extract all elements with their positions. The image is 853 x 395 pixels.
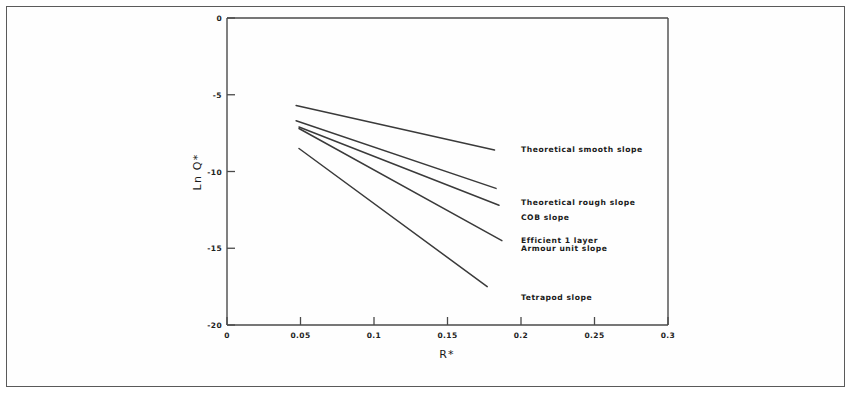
series-label-theoretical-smooth-slope: Theoretical smooth slope bbox=[521, 145, 643, 154]
series-label-theoretical-rough-slope: Theoretical rough slope bbox=[521, 198, 635, 207]
figure-root: 0 -5 -10 -15 -20 0 0.05 0.1 0.15 0.2 0.2… bbox=[0, 0, 853, 395]
series-label-cob-slope: COB slope bbox=[521, 213, 569, 222]
chart-canvas: 0 -5 -10 -15 -20 0 0.05 0.1 0.15 0.2 0.2… bbox=[0, 0, 853, 395]
y-tick-label-m20: -20 bbox=[207, 321, 222, 330]
x-tick-label-005: 0.05 bbox=[290, 331, 310, 340]
y-axis-title: Ln Q* bbox=[191, 154, 204, 191]
y-tick-label-m10: -10 bbox=[207, 168, 222, 177]
series-line-theoretical-rough-slope bbox=[296, 121, 496, 189]
y-tick-label-0: 0 bbox=[216, 14, 222, 23]
series-line-cob-slope bbox=[299, 127, 499, 205]
y-axis-ticks bbox=[227, 18, 235, 325]
y-tick-labels: 0 -5 -10 -15 -20 bbox=[207, 14, 222, 330]
x-tick-label-03: 0.3 bbox=[661, 331, 676, 340]
x-axis-title: R* bbox=[439, 348, 455, 361]
x-tick-label-02: 0.2 bbox=[514, 331, 529, 340]
series-label-armour-unit-slope: Armour unit slope bbox=[521, 244, 608, 253]
x-tick-labels: 0 0.05 0.1 0.15 0.2 0.25 0.3 bbox=[224, 331, 675, 340]
y-tick-label-m15: -15 bbox=[207, 244, 222, 253]
series-labels: Theoretical smooth slope Theoretical rou… bbox=[521, 145, 643, 302]
x-axis-ticks bbox=[227, 317, 668, 325]
y-tick-label-m5: -5 bbox=[213, 91, 222, 100]
x-tick-label-01: 0.1 bbox=[367, 331, 382, 340]
x-tick-label-025: 0.25 bbox=[584, 331, 604, 340]
series-lines bbox=[296, 106, 502, 287]
x-tick-label-015: 0.15 bbox=[437, 331, 457, 340]
series-label-tetrapod-slope: Tetrapod slope bbox=[521, 293, 592, 302]
x-tick-label-0: 0 bbox=[224, 331, 230, 340]
